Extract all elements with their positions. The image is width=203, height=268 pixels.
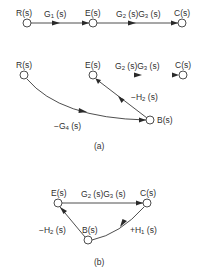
node-c	[179, 71, 187, 79]
caption-b: (b)	[94, 257, 104, 267]
arrow-icon	[96, 79, 102, 85]
node-c	[178, 19, 186, 27]
gain-g1: G1 (s)	[44, 9, 66, 21]
node-label-c: C(s)	[174, 8, 190, 18]
node-b	[146, 116, 154, 124]
arrow-icon	[118, 96, 125, 103]
gain-minus-h2: −H2 (s)	[39, 225, 66, 237]
diagram-b	[54, 199, 151, 244]
gain-minus-g4: −G4 (s)	[54, 121, 81, 133]
node-c	[143, 199, 151, 207]
node-label-e: E(s)	[85, 60, 101, 70]
node-label-c: C(s)	[140, 188, 156, 198]
node-label-e: E(s)	[85, 8, 101, 18]
gain-g2g3: G2 (s)G3 (s)	[81, 189, 125, 201]
caption-a: (a)	[94, 141, 104, 151]
node-b	[84, 236, 92, 244]
signal-flow-graphs	[0, 0, 203, 268]
gain-plus-h1: +H1 (s)	[130, 225, 157, 237]
node-e	[89, 71, 97, 79]
gain-g2g3: G2 (s)G3 (s)	[116, 9, 160, 21]
node-label-r: R(s)	[16, 60, 32, 70]
node-r	[20, 71, 28, 79]
arrow-icon	[139, 118, 146, 123]
node-label-c: C(s)	[175, 60, 191, 70]
arrow-icon	[60, 207, 67, 214]
node-label-r: R(s)	[16, 8, 32, 18]
node-label-b: B(s)	[157, 115, 173, 125]
arrow-icon	[136, 201, 143, 206]
arrow-icon	[171, 21, 178, 26]
node-e	[54, 199, 62, 207]
gain-minus-h2: −H2 (s)	[131, 92, 158, 104]
edge-r-b	[27, 79, 146, 120]
node-e	[89, 19, 97, 27]
node-label-b: B(s)	[82, 225, 98, 235]
arrow-icon	[172, 73, 179, 78]
arrow-icon	[52, 21, 60, 26]
node-r	[23, 19, 31, 27]
arrow-icon	[128, 21, 136, 26]
arrow-icon	[82, 21, 89, 26]
gain-g2g3: G2 (s)G3 (s)	[115, 61, 159, 73]
arrow-icon	[134, 73, 142, 78]
node-label-e: E(s)	[51, 188, 67, 198]
